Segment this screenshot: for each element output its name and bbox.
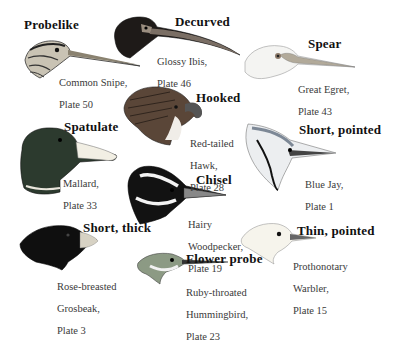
caption-plate: Plate 50	[59, 99, 127, 110]
caption-bird-name-line2: Hummingbird,	[186, 309, 248, 320]
caption-plate: Plate 19	[188, 263, 243, 274]
caption-plate: Plate 23	[186, 331, 248, 342]
caption-common-snipe: Common Snipe, Plate 50	[59, 66, 127, 121]
caption-hairy-woodpecker: Hairy Woodpecker, Plate 19	[188, 208, 243, 285]
heading-probelike: Probelike	[24, 17, 79, 33]
heading-spear: Spear	[308, 36, 342, 52]
caption-bird-name-line2: Warbler,	[293, 283, 348, 294]
caption-plate: Plate 33	[63, 200, 99, 211]
caption-bird-name: Great Egret,	[298, 84, 349, 95]
caption-bird-name: Common Snipe,	[59, 77, 127, 88]
caption-bird-name: Prothonotary	[293, 261, 348, 272]
caption-glossy-ibis: Glossy Ibis, Plate 46	[157, 45, 207, 100]
caption-bird-name-line2: Grosbeak,	[57, 303, 116, 314]
heading-short-thick: Short, thick	[83, 220, 151, 236]
caption-plate: Plate 1	[305, 201, 343, 212]
caption-red-tailed-hawk: Red-tailed Hawk, Plate 28	[190, 127, 234, 204]
caption-bird-name: Glossy Ibis,	[157, 56, 207, 67]
caption-bird-name-line2: Woodpecker,	[188, 241, 243, 252]
caption-plate: Plate 3	[57, 325, 116, 336]
caption-bird-name: Blue Jay,	[305, 179, 343, 190]
caption-great-egret: Great Egret, Plate 43	[298, 73, 349, 128]
caption-plate: Plate 28	[190, 182, 234, 193]
caption-bird-name: Mallard,	[63, 178, 99, 189]
caption-mallard: Mallard, Plate 33	[63, 167, 99, 222]
heading-decurved: Decurved	[175, 14, 230, 30]
caption-rose-breasted-grosbeak: Rose-breasted Grosbeak, Plate 3	[57, 270, 116, 344]
caption-bird-name: Ruby-throated	[186, 287, 248, 298]
caption-bird-name-line2: Hawk,	[190, 160, 234, 171]
caption-ruby-throated-hummingbird: Ruby-throated Hummingbird, Plate 23	[186, 276, 248, 344]
heading-thin-pointed: Thin, pointed	[297, 223, 375, 239]
caption-plate: Plate 46	[157, 78, 207, 89]
caption-bird-name: Rose-breasted	[57, 281, 116, 292]
caption-bird-name: Red-tailed	[190, 138, 234, 149]
caption-blue-jay: Blue Jay, Plate 1	[305, 168, 343, 223]
caption-plate: Plate 43	[298, 106, 349, 117]
caption-prothonotary-warbler: Prothonotary Warbler, Plate 15	[293, 250, 348, 327]
heading-spatulate: Spatulate	[64, 119, 119, 135]
caption-plate: Plate 15	[293, 305, 348, 316]
caption-bird-name: Hairy	[188, 219, 243, 230]
